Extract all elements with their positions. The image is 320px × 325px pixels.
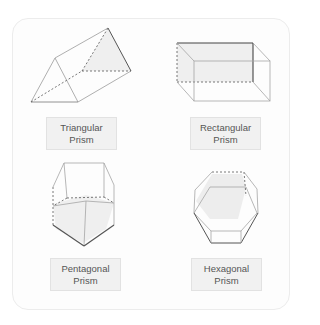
label-line-1: Pentagonal [61,263,109,275]
label-rectangular-prism: Rectangular Prism [190,117,261,150]
label-line-2: Prism [69,134,93,146]
triangular-prism-drawing [31,28,131,102]
hexagonal-prism-drawing [194,172,258,243]
label-line-1: Hexagonal [204,263,249,275]
label-line-1: Triangular [60,122,102,134]
label-pentagonal-prism: Pentagonal Prism [50,258,121,291]
label-line-2: Prism [213,134,237,146]
label-hexagonal-prism: Hexagonal Prism [191,258,262,291]
pentagonal-prism-drawing [53,163,114,246]
label-triangular-prism: Triangular Prism [46,117,117,150]
rectangular-prism-drawing [177,43,270,101]
label-line-1: Rectangular [200,122,251,134]
label-line-2: Prism [214,275,238,287]
label-line-2: Prism [73,275,97,287]
